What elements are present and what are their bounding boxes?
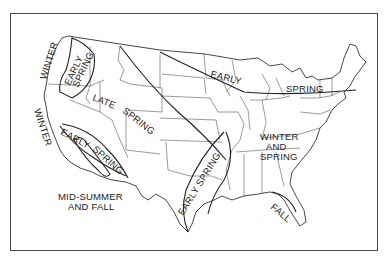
- label-fall-florida: FALL: [269, 201, 294, 224]
- label-late: LATE: [91, 92, 117, 111]
- label-and-fall: AND FALL: [68, 201, 114, 212]
- label-early-ca: EARLY: [59, 126, 92, 151]
- label-winter-northwest: WINTER: [37, 40, 59, 80]
- us-season-map: WINTER EARLY SPRING LATE SPRING WINTER E…: [0, 0, 390, 264]
- label-winter-and-spring-3: SPRING: [260, 151, 298, 162]
- label-early-spring-south: EARLY SPRING: [175, 150, 222, 217]
- label-spring-north: SPRING: [286, 83, 324, 94]
